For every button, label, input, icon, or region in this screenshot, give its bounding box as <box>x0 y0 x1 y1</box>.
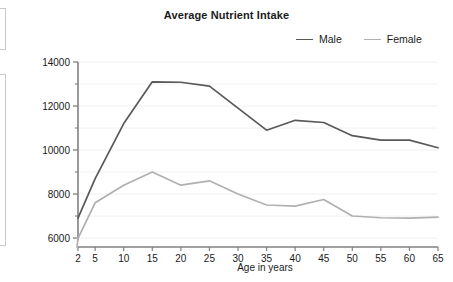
svg-text:50: 50 <box>347 253 359 264</box>
svg-text:10000: 10000 <box>42 145 70 156</box>
svg-text:10: 10 <box>118 253 130 264</box>
svg-text:20: 20 <box>175 253 187 264</box>
svg-text:60: 60 <box>404 253 416 264</box>
svg-text:30: 30 <box>232 253 244 264</box>
svg-text:12000: 12000 <box>42 101 70 112</box>
plot-area: 60008000100001200014000 2510152025303540… <box>0 0 453 282</box>
svg-text:35: 35 <box>261 253 273 264</box>
svg-text:55: 55 <box>375 253 387 264</box>
svg-text:6000: 6000 <box>48 233 71 244</box>
svg-text:14000: 14000 <box>42 57 70 68</box>
svg-text:40: 40 <box>290 253 302 264</box>
series-line-female <box>78 172 438 238</box>
y-axis: 60008000100001200014000 <box>42 57 78 244</box>
svg-text:15: 15 <box>147 253 159 264</box>
x-axis: 25101520253035404550556065 <box>75 247 444 264</box>
svg-text:65: 65 <box>432 253 444 264</box>
gridlines <box>78 62 438 238</box>
data-series <box>77 82 438 247</box>
series-line-female-origin-tail <box>77 238 78 247</box>
svg-text:5: 5 <box>92 253 98 264</box>
line-chart: Average Nutrient Intake Male Female Aver… <box>0 0 453 282</box>
svg-text:8000: 8000 <box>48 189 71 200</box>
svg-text:25: 25 <box>204 253 216 264</box>
svg-text:45: 45 <box>318 253 330 264</box>
svg-text:2: 2 <box>75 253 81 264</box>
